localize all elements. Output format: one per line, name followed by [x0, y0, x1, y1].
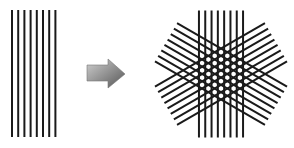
diagram-canvas [0, 0, 294, 148]
parallel-lines-group [12, 10, 55, 137]
line-set [155, 23, 287, 125]
hexagonal-star-group [155, 11, 287, 138]
line-set [155, 23, 287, 125]
arrow-icon [87, 59, 125, 88]
line-set [199, 11, 243, 138]
